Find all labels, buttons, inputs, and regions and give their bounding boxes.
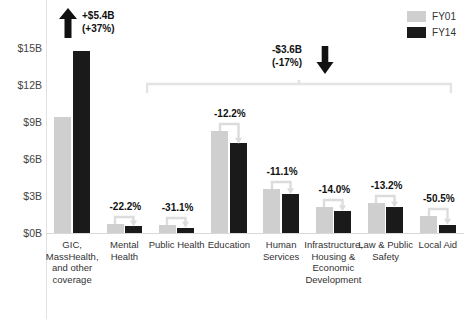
change-connector-arrow [320, 198, 347, 216]
y-axis-tick: $6B [23, 153, 42, 165]
down-arrow-icon [316, 46, 334, 78]
callout-rest-line2: (-17%) [272, 57, 302, 70]
y-axis-tick: $15B [17, 42, 42, 54]
y-axis-tick: $9B [23, 116, 42, 128]
y-axis-tick: $3B [23, 190, 42, 202]
callout-gic-line2: (+37%) [82, 23, 115, 36]
x-axis-category-label: Public Health [148, 239, 206, 251]
change-connector-arrow [372, 194, 399, 212]
y-axis-tick: $12B [17, 79, 42, 91]
bar-change-label: -22.2% [110, 201, 142, 212]
bar-change-label: -12.2% [214, 108, 246, 119]
callout-gic-growth: +$5.4B (+37%) [82, 10, 115, 35]
x-axis-category-label: Infrastructure, Housing & Economic Devel… [304, 239, 362, 285]
change-connector-arrow [111, 215, 138, 231]
change-connector-arrow [268, 180, 295, 199]
change-connector-arrow [163, 216, 190, 232]
bar-fy01 [54, 117, 71, 233]
callout-rest-decline: -$3.6B (-17%) [272, 44, 302, 69]
bar-change-label: -13.2% [371, 180, 403, 191]
bar-change-label: -14.0% [319, 184, 351, 195]
x-axis-category-label: GIC, MassHealth, and other coverage [43, 239, 101, 285]
up-arrow-icon [58, 8, 78, 42]
x-axis-category-label: Mental Health [95, 239, 153, 262]
bar-chart: FY01 FY14 $0B$3B$6B$9B$12B$15B -22.2% -3… [0, 0, 464, 319]
bar-fy14 [73, 51, 90, 233]
bar-change-label: -50.5% [423, 193, 455, 204]
x-axis-categories: GIC, MassHealth, and other coverageMenta… [46, 239, 464, 319]
bar-change-label: -11.1% [267, 166, 298, 177]
change-connector-arrow [216, 122, 243, 148]
x-axis-category-label: Education [200, 239, 258, 251]
y-axis-tick: $0B [23, 227, 42, 239]
y-axis: $0B$3B$6B$9B$12B$15B [0, 0, 46, 319]
bar-fy14 [230, 143, 247, 233]
bar-fy14 [282, 194, 299, 233]
callout-rest-line1: -$3.6B [272, 44, 302, 57]
x-axis-category-label: Law & Public Safety [357, 239, 415, 262]
x-axis-category-label: Human Services [252, 239, 310, 262]
x-axis-category-label: Local Aid [409, 239, 464, 251]
span-bracket-icon [146, 80, 452, 98]
change-connector-arrow [425, 207, 452, 229]
callout-gic-line1: +$5.4B [82, 10, 115, 23]
bar-change-label: -31.1% [162, 202, 194, 213]
